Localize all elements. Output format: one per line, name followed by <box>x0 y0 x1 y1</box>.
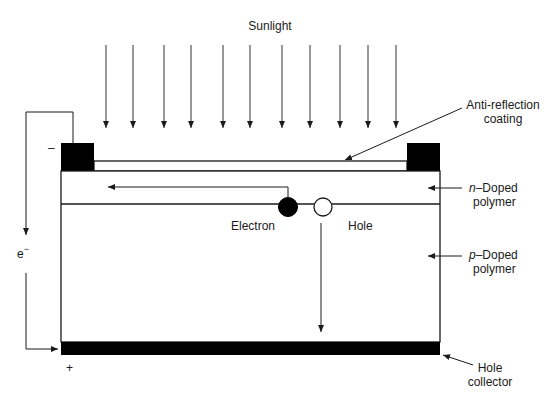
positive-top-contact <box>407 143 440 171</box>
anti-reflection-pointer <box>345 108 462 160</box>
anti-reflection-coating <box>94 161 407 171</box>
hole-collector-label-line1: Hole <box>478 361 503 375</box>
hole-collector-label-line2: collector <box>468 375 513 389</box>
sunlight-label: Sunlight <box>248 19 292 33</box>
p-doped-label-line2: polymer <box>473 262 516 276</box>
sunlight-arrows <box>106 45 396 128</box>
hole-icon <box>314 198 332 216</box>
cell-body <box>61 171 440 342</box>
anti-reflection-label-line1: Anti-reflection <box>466 98 539 112</box>
anti-reflection-label-line2: coating <box>484 112 523 126</box>
external-circuit-bottom-wire <box>26 273 58 349</box>
n-doped-label-line2: polymer <box>473 195 516 209</box>
positive-terminal-label: + <box>66 361 73 375</box>
solar-cell-diagram: Sunlight Electron Hole e− – + Anti-refle… <box>0 0 556 405</box>
electron-icon <box>279 198 298 217</box>
hole-label: Hole <box>348 219 373 233</box>
p-doped-label-line1: p–Doped <box>468 248 518 262</box>
negative-terminal-label: – <box>48 141 55 155</box>
negative-contact <box>61 143 94 171</box>
n-doped-label-line1: n–Doped <box>469 181 518 195</box>
electron-flow-label: e− <box>17 244 29 261</box>
hole-collector <box>61 342 440 355</box>
electron-label: Electron <box>231 219 275 233</box>
hole-collector-pointer <box>443 355 473 365</box>
